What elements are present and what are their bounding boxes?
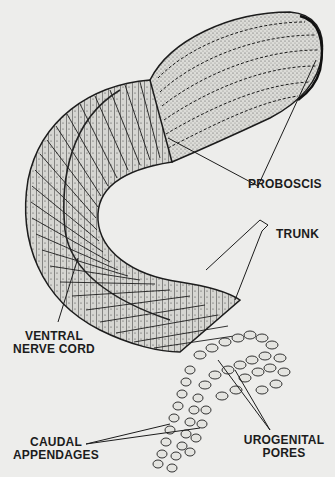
label-urogenital-line2: PORES: [238, 447, 330, 460]
label-caudal-appendages: CAUDAL APPENDAGES: [8, 436, 104, 462]
label-ventral-nerve-cord: VENTRAL NERVE CORD: [6, 330, 102, 356]
label-ventral-line2: NERVE CORD: [6, 343, 102, 356]
label-proboscis: PROBOSCIS: [248, 178, 322, 191]
worm-diagram: PROBOSCIS TRUNK VENTRAL NERVE CORD CAUDA…: [0, 0, 335, 477]
label-trunk: TRUNK: [276, 228, 319, 241]
label-caudal-line2: APPENDAGES: [8, 449, 104, 462]
label-urogenital-pores: UROGENITAL PORES: [238, 434, 330, 460]
proboscis-body: [150, 12, 323, 162]
